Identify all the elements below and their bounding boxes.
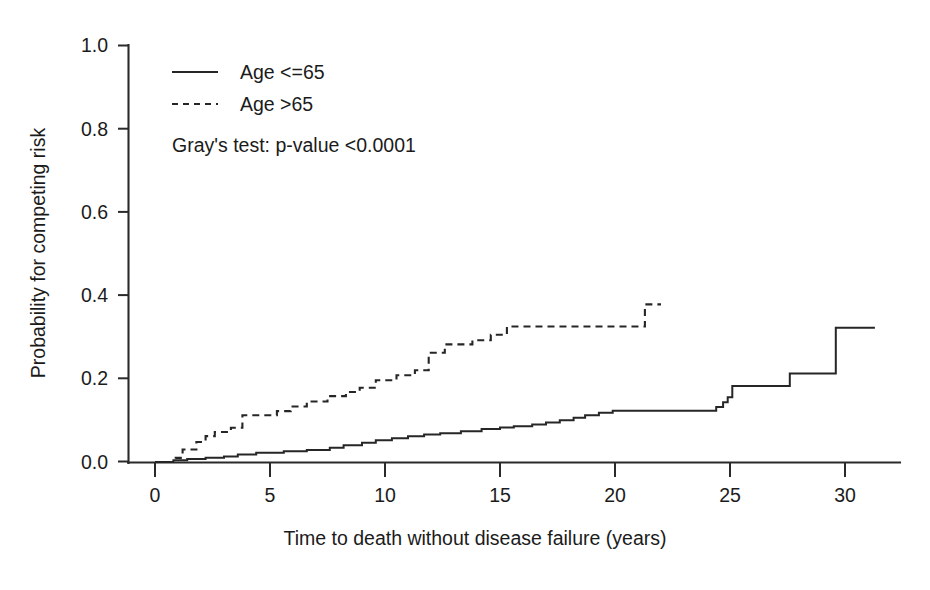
y-tick-label-0-0: 0.0 [81,451,108,473]
chart-legend: Age <=65 Age >65 [172,61,325,115]
x-tick-label-15: 15 [489,484,511,506]
x-tick-label-5: 5 [265,484,276,506]
x-tick-label-25: 25 [719,484,741,506]
y-tick-label-0-2: 0.2 [81,367,108,389]
y-tick-label-0-6: 0.6 [81,201,108,223]
y-tick-label-0-8: 0.8 [81,118,108,140]
y-tick-label-1-0: 1.0 [81,34,108,56]
x-tick-label-30: 30 [834,484,856,506]
y-axis-title: Probability for competing risk [27,128,49,379]
x-axis-title: Time to death without disease failure (y… [284,527,667,549]
competing-risk-chart-figure: 1.0 0.8 0.6 0.4 0.2 0.0 0 5 10 15 20 25 … [0,0,930,590]
curve-age-lte-65 [155,328,875,462]
legend-label-age-lte-65: Age <=65 [240,61,325,83]
x-tick-label-0: 0 [150,484,161,506]
x-tick-label-20: 20 [604,484,626,506]
grays-test-annotation: Gray's test: p-value <0.0001 [172,134,416,156]
legend-label-age-gt-65: Age >65 [240,93,313,115]
y-tick-label-0-4: 0.4 [81,284,108,306]
x-axis-ticks [155,463,845,477]
chart-canvas: 1.0 0.8 0.6 0.4 0.2 0.0 0 5 10 15 20 25 … [0,0,930,590]
y-axis-ticks [118,46,128,462]
x-tick-label-10: 10 [374,484,396,506]
